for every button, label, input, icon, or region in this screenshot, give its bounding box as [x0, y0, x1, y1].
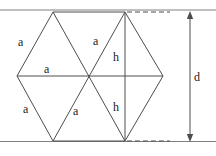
- label-side-a-middle: a: [44, 63, 49, 75]
- label-height-h-upper: h: [113, 51, 119, 63]
- dimension-arrowhead-down: [187, 134, 193, 142]
- label-side-a-lower-left: a: [23, 103, 28, 115]
- label-side-a-lower-mid: a: [73, 105, 78, 117]
- figure-canvas: [0, 0, 216, 156]
- label-side-a-center-top: a: [93, 35, 98, 47]
- label-dimension-d: d: [194, 71, 200, 83]
- dimension-arrowhead-up: [187, 11, 193, 19]
- label-side-a-upper-left: a: [18, 36, 23, 48]
- geometry-figure: a a a a a h h d: [0, 0, 216, 156]
- label-height-h-lower: h: [113, 101, 119, 113]
